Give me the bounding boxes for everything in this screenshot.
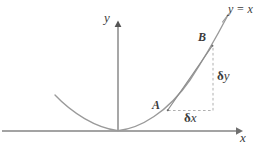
y-axis-label: y (104, 11, 110, 24)
y-axis (115, 21, 122, 132)
chord-line-ab (168, 46, 213, 111)
delta-y-symbol: δ (217, 68, 224, 83)
point-a-marker (167, 109, 169, 111)
x-axis (2, 127, 243, 135)
delta-x-symbol: δ (184, 110, 191, 125)
delta-x-label: δx (184, 111, 197, 124)
curve-equation-label: y = x (228, 3, 253, 15)
figure-canvas: y x y = x A B δy δx (0, 0, 267, 146)
point-a-label: A (152, 99, 160, 111)
y-axis-arrowhead (115, 21, 122, 28)
delta-x-variable: x (191, 110, 197, 125)
delta-y-variable: y (224, 68, 230, 83)
point-b-label: B (198, 31, 206, 43)
x-axis-label: x (240, 131, 246, 144)
point-b-marker (211, 45, 213, 47)
delta-y-label: δy (217, 69, 230, 82)
